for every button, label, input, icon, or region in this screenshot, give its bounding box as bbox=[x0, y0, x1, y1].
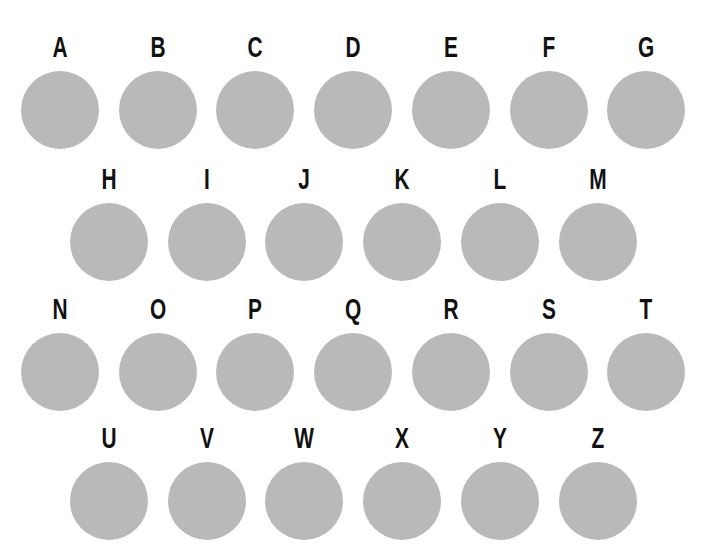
letter-cell-l: L bbox=[460, 165, 540, 295]
letter-cell-c: C bbox=[215, 33, 295, 163]
letter-label: R bbox=[422, 295, 480, 323]
letter-label: Y bbox=[471, 424, 529, 452]
letter-disc-h[interactable] bbox=[70, 203, 148, 281]
letter-label: Q bbox=[324, 295, 382, 323]
letter-label: C bbox=[227, 33, 285, 61]
letter-disc-r[interactable] bbox=[412, 333, 490, 411]
letter-label: Z bbox=[569, 424, 627, 452]
letter-disc-l[interactable] bbox=[461, 203, 539, 281]
letter-label: J bbox=[276, 165, 334, 193]
letter-cell-b: B bbox=[118, 33, 198, 163]
letter-cell-f: F bbox=[509, 33, 589, 163]
letter-label: M bbox=[569, 165, 627, 193]
letter-disc-u[interactable] bbox=[70, 462, 148, 540]
letter-disc-p[interactable] bbox=[216, 333, 294, 411]
letter-label: V bbox=[178, 424, 236, 452]
letter-disc-b[interactable] bbox=[119, 71, 197, 149]
letter-cell-i: I bbox=[167, 165, 247, 295]
letter-label: F bbox=[520, 33, 578, 61]
letter-label: P bbox=[227, 295, 285, 323]
letter-disc-o[interactable] bbox=[119, 333, 197, 411]
letter-cell-a: A bbox=[20, 33, 100, 163]
letter-disc-a[interactable] bbox=[21, 71, 99, 149]
letter-cell-u: U bbox=[69, 424, 149, 554]
letter-label: U bbox=[80, 424, 138, 452]
letter-disc-y[interactable] bbox=[461, 462, 539, 540]
letter-disc-c[interactable] bbox=[216, 71, 294, 149]
letter-cell-s: S bbox=[509, 295, 589, 425]
letter-cell-r: R bbox=[411, 295, 491, 425]
letter-cell-z: Z bbox=[558, 424, 638, 554]
letter-cell-x: X bbox=[362, 424, 442, 554]
letter-disc-g[interactable] bbox=[607, 71, 685, 149]
letter-cell-n: N bbox=[20, 295, 100, 425]
letter-cell-m: M bbox=[558, 165, 638, 295]
letter-disc-f[interactable] bbox=[510, 71, 588, 149]
letter-label: L bbox=[471, 165, 529, 193]
letter-label: S bbox=[520, 295, 578, 323]
letter-cell-d: D bbox=[313, 33, 393, 163]
letter-disc-e[interactable] bbox=[412, 71, 490, 149]
letter-cell-k: K bbox=[362, 165, 442, 295]
letter-label: B bbox=[129, 33, 187, 61]
letter-cell-q: Q bbox=[313, 295, 393, 425]
letter-disc-z[interactable] bbox=[559, 462, 637, 540]
letter-label: I bbox=[178, 165, 236, 193]
letter-label: O bbox=[129, 295, 187, 323]
letter-disc-d[interactable] bbox=[314, 71, 392, 149]
letter-cell-p: P bbox=[215, 295, 295, 425]
letter-disc-s[interactable] bbox=[510, 333, 588, 411]
letter-label: X bbox=[373, 424, 431, 452]
letter-label: K bbox=[373, 165, 431, 193]
letter-disc-t[interactable] bbox=[607, 333, 685, 411]
letter-disc-v[interactable] bbox=[168, 462, 246, 540]
letter-disc-i[interactable] bbox=[168, 203, 246, 281]
letter-cell-w: W bbox=[264, 424, 344, 554]
letter-label: G bbox=[617, 33, 675, 61]
letter-label: E bbox=[422, 33, 480, 61]
letter-label: H bbox=[80, 165, 138, 193]
letter-disc-w[interactable] bbox=[265, 462, 343, 540]
letter-disc-n[interactable] bbox=[21, 333, 99, 411]
letter-disc-x[interactable] bbox=[363, 462, 441, 540]
letter-label: D bbox=[324, 33, 382, 61]
letter-disc-j[interactable] bbox=[265, 203, 343, 281]
letter-disc-q[interactable] bbox=[314, 333, 392, 411]
letter-label: W bbox=[276, 424, 334, 452]
letter-disc-k[interactable] bbox=[363, 203, 441, 281]
letter-cell-v: V bbox=[167, 424, 247, 554]
letter-cell-e: E bbox=[411, 33, 491, 163]
letter-label: A bbox=[31, 33, 89, 61]
letter-cell-o: O bbox=[118, 295, 198, 425]
letter-cell-t: T bbox=[606, 295, 686, 425]
letter-label: N bbox=[31, 295, 89, 323]
letter-cell-g: G bbox=[606, 33, 686, 163]
letter-cell-h: H bbox=[69, 165, 149, 295]
letter-cell-y: Y bbox=[460, 424, 540, 554]
letter-disc-m[interactable] bbox=[559, 203, 637, 281]
letter-label: T bbox=[617, 295, 675, 323]
letter-cell-j: J bbox=[264, 165, 344, 295]
